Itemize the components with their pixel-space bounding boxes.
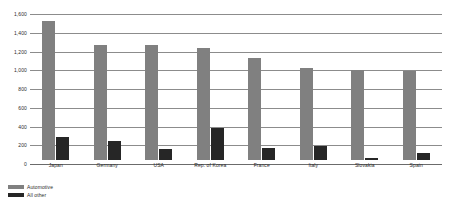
chart-legend: AutomotiveAll other	[8, 183, 53, 199]
bar-allother	[262, 148, 275, 160]
x-axis-category-label: USA	[133, 162, 185, 168]
legend-item: Automotive	[8, 183, 53, 191]
x-axis-category-label: Japan	[30, 162, 82, 168]
x-axis-category-label: France	[236, 162, 288, 168]
bar-allother	[56, 137, 69, 160]
y-axis-tick-label: 1,200	[14, 49, 27, 55]
bars-layer	[30, 14, 442, 160]
x-axis-category-label: Germany	[82, 162, 134, 168]
bar-group	[236, 14, 288, 160]
bar-automotive	[145, 45, 158, 160]
bar-allother	[159, 149, 172, 160]
y-axis-tick-label: 0	[24, 161, 27, 167]
x-axis-labels: JapanGermanyUSARep. of KoreaFranceItalyS…	[30, 162, 442, 168]
bar-allother	[417, 153, 430, 160]
y-axis-tick-label: 1,000	[14, 67, 27, 73]
y-axis-tick-label: 400	[18, 124, 27, 130]
y-axis-tick-label: 600	[18, 105, 27, 111]
bar-allother	[211, 128, 224, 160]
legend-item-label: All other	[27, 192, 46, 198]
bar-group	[30, 14, 82, 160]
bar-automotive	[42, 21, 55, 160]
bar-group	[288, 14, 340, 160]
bar-automotive	[351, 70, 364, 160]
bar-group	[391, 14, 443, 160]
bar-group	[185, 14, 237, 160]
bar-allother	[314, 146, 327, 160]
bar-group	[339, 14, 391, 160]
bar-automotive	[197, 48, 210, 160]
y-axis-tick-label: 800	[18, 86, 27, 92]
bar-allother	[365, 158, 378, 160]
y-axis-tick-label: 1,400	[14, 30, 27, 36]
bar-chart-figure: 02004006008001,0001,2001,4001,600 JapanG…	[0, 0, 450, 206]
bar-allother	[108, 141, 121, 160]
legend-item: All other	[8, 191, 53, 199]
y-axis-tick-label: 1,600	[14, 11, 27, 17]
bar-automotive	[248, 58, 261, 160]
legend-item-label: Automotive	[27, 184, 53, 190]
bar-group	[133, 14, 185, 160]
x-axis-category-label: Italy	[288, 162, 340, 168]
x-axis-category-label: Spain	[391, 162, 443, 168]
x-axis-category-label: Rep. of Korea	[185, 162, 237, 168]
legend-swatch-icon	[8, 193, 24, 197]
y-axis-tick-label: 200	[18, 142, 27, 148]
bar-automotive	[94, 45, 107, 160]
bar-automotive	[403, 71, 416, 160]
legend-swatch-icon	[8, 185, 24, 189]
bar-automotive	[300, 68, 313, 160]
bar-group	[82, 14, 134, 160]
x-axis-category-label: Slovakia	[339, 162, 391, 168]
